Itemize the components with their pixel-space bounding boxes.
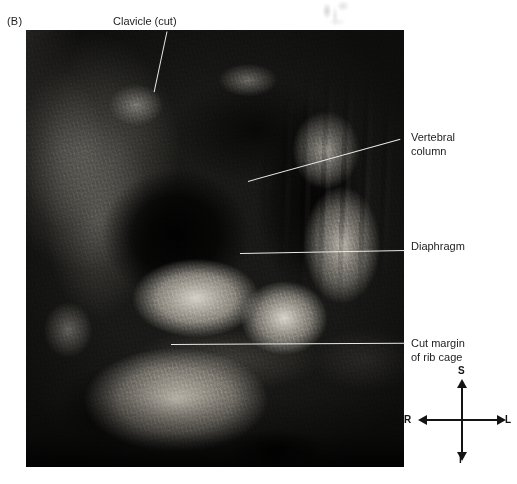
compass-vertical-axis [461,385,463,455]
compass-arrow-right-icon [418,415,427,425]
orientation-compass: S I R L [412,376,512,466]
label-vertebral-column: Vertebral column [411,131,455,158]
dissection-photograph [26,30,404,467]
compass-arrow-superior-icon [457,379,467,388]
scan-artifact-smudge [313,0,359,26]
compass-label-left: L [505,414,511,425]
label-diaphragm: Diaphragm [411,240,465,254]
panel-letter: (B) [7,15,22,27]
compass-label-superior: S [458,365,465,376]
compass-label-inferior: I [459,454,462,465]
compass-label-right: R [404,414,411,425]
photo-vignette [26,30,404,467]
label-clavicle-cut: Clavicle (cut) [113,15,177,29]
label-cut-margin-of-rib-cage: Cut margin of rib cage [411,337,465,364]
